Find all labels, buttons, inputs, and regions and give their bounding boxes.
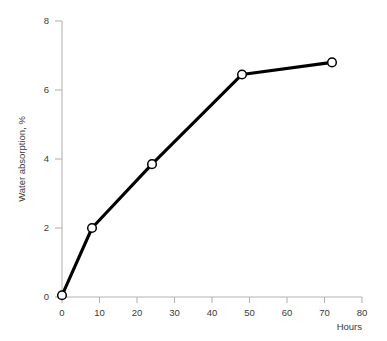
data-point-marker	[58, 291, 67, 300]
data-point-marker	[148, 160, 157, 169]
y-tick-label: 8	[44, 15, 49, 26]
y-tick-label: 2	[44, 222, 49, 233]
data-series-water-absorption	[58, 58, 337, 299]
x-tick-label: 20	[132, 307, 143, 318]
data-point-marker	[88, 224, 97, 233]
x-axis-ticks: 01020304050607080	[59, 297, 367, 318]
data-point-markers	[58, 58, 337, 299]
line-chart: 02468 01020304050607080 Hours Water abso…	[0, 0, 387, 341]
x-tick-label: 30	[169, 307, 180, 318]
axes	[62, 21, 362, 297]
chart-container: 02468 01020304050607080 Hours Water abso…	[0, 0, 387, 341]
data-point-marker	[328, 58, 337, 67]
y-tick-label: 0	[44, 291, 49, 302]
x-tick-label: 50	[244, 307, 255, 318]
x-tick-label: 10	[94, 307, 105, 318]
x-tick-label: 0	[59, 307, 64, 318]
data-point-marker	[238, 70, 247, 79]
x-tick-label: 60	[282, 307, 293, 318]
x-tick-label: 80	[357, 307, 368, 318]
x-tick-label: 70	[319, 307, 330, 318]
y-tick-label: 4	[44, 153, 49, 164]
y-tick-label: 6	[44, 84, 49, 95]
x-tick-label: 40	[207, 307, 218, 318]
y-axis-ticks: 02468	[44, 15, 62, 302]
series-line	[62, 62, 332, 295]
y-axis-title: Water absorption, %	[16, 116, 27, 202]
x-axis-title: Hours	[337, 321, 363, 332]
